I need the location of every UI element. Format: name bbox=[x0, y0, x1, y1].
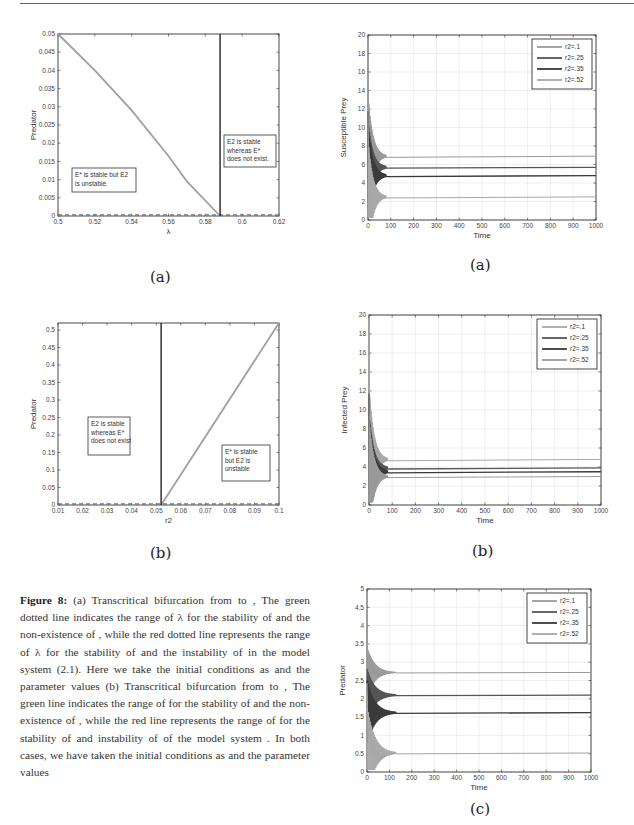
x-tick-label: 600 bbox=[503, 507, 514, 514]
legend: r2=.1r2=.25r2=.35r2=.52 bbox=[532, 39, 592, 89]
y-tick-label: 0.35 bbox=[42, 379, 55, 386]
y-tick-label: 1.5 bbox=[355, 713, 364, 720]
sublabel-right-b: (b) bbox=[472, 542, 493, 560]
y-tick-label: 12 bbox=[358, 105, 366, 112]
x-tick-label: 400 bbox=[451, 774, 462, 781]
x-tick-label: 1000 bbox=[584, 774, 599, 781]
y-tick-label: 2 bbox=[362, 482, 366, 489]
legend-entry: r2=.25 bbox=[565, 54, 584, 61]
x-tick-label: 600 bbox=[499, 222, 510, 229]
legend: r2=.1r2=.25r2=.35r2=.52 bbox=[527, 593, 587, 643]
x-tick-label: 700 bbox=[526, 507, 537, 514]
x-tick-label: 0.09 bbox=[248, 507, 261, 514]
x-tick-label: 300 bbox=[433, 507, 444, 514]
legend-entry: r2=.35 bbox=[565, 65, 584, 72]
y-tick-label: 5 bbox=[360, 585, 364, 592]
annotation-text: does not exist. bbox=[227, 155, 269, 162]
annotation-text: whereas E* bbox=[90, 429, 125, 436]
x-tick-label: 100 bbox=[387, 507, 398, 514]
x-tick-label: 600 bbox=[496, 774, 507, 781]
y-tick-label: 0.05 bbox=[42, 30, 55, 37]
y-tick-label: 14 bbox=[359, 368, 367, 375]
x-tick-label: 200 bbox=[406, 774, 417, 781]
x-tick-label: 700 bbox=[518, 774, 529, 781]
annotation-text: E2 is stable bbox=[91, 420, 125, 427]
x-tick-label: 100 bbox=[384, 774, 395, 781]
x-tick-label: 900 bbox=[563, 774, 574, 781]
x-tick-label: 0 bbox=[365, 774, 369, 781]
y-axis-label: Predator bbox=[338, 665, 347, 696]
legend: r2=.1r2=.25r2=.35r2=.52 bbox=[537, 319, 597, 369]
sublabel-left-b: (b) bbox=[150, 544, 171, 562]
figure-number: Figure 8: bbox=[20, 594, 67, 606]
y-tick-label: 0.01 bbox=[42, 176, 55, 183]
chart-susceptible-prey: 0100200300400500600700800900100002468101… bbox=[317, 0, 634, 260]
x-axis-label: r2 bbox=[165, 516, 173, 525]
legend-entry: r2=.52 bbox=[560, 630, 579, 637]
legend-entry: r2=.35 bbox=[560, 619, 579, 626]
x-tick-label: 0.56 bbox=[162, 218, 175, 225]
y-tick-label: 0.025 bbox=[39, 121, 56, 128]
y-tick-label: 3 bbox=[360, 658, 364, 665]
x-tick-label: 0.58 bbox=[199, 218, 212, 225]
y-tick-label: 4.5 bbox=[355, 604, 364, 611]
x-tick-label: 400 bbox=[456, 507, 467, 514]
legend-entry: r2=.25 bbox=[570, 334, 589, 341]
y-tick-label: 16 bbox=[358, 68, 366, 75]
y-tick-label: 18 bbox=[358, 50, 366, 57]
y-tick-label: 0.25 bbox=[42, 414, 55, 421]
x-tick-label: 0.04 bbox=[125, 507, 138, 514]
y-tick-label: 0.04 bbox=[42, 67, 55, 74]
y-tick-label: 6 bbox=[361, 161, 365, 168]
chart-infected-prey: 0100200300400500600700800900100002468101… bbox=[317, 300, 634, 540]
legend-entry: r2=.52 bbox=[565, 76, 584, 83]
y-tick-label: 1 bbox=[360, 732, 364, 739]
y-tick-label: 0.15 bbox=[42, 449, 55, 456]
y-tick-label: 0 bbox=[361, 216, 365, 223]
y-tick-label: 14 bbox=[358, 87, 366, 94]
x-tick-label: 0.1 bbox=[274, 507, 283, 514]
y-tick-label: 0 bbox=[51, 212, 55, 219]
x-tick-label: 100 bbox=[385, 222, 396, 229]
x-tick-label: 500 bbox=[474, 774, 485, 781]
y-tick-label: 2.5 bbox=[355, 677, 364, 684]
x-tick-label: 200 bbox=[410, 507, 421, 514]
x-tick-label: 0.62 bbox=[273, 218, 286, 225]
y-axis-label: Predator bbox=[29, 398, 38, 429]
x-axis-label: Time bbox=[476, 516, 494, 525]
x-tick-label: 800 bbox=[541, 774, 552, 781]
x-axis-label: λ bbox=[167, 227, 171, 236]
annotation-text: but E2 is bbox=[225, 457, 251, 464]
x-tick-label: 0.08 bbox=[224, 507, 237, 514]
y-tick-label: 10 bbox=[358, 124, 366, 131]
y-tick-label: 20 bbox=[359, 311, 367, 318]
x-tick-label: 0.6 bbox=[238, 218, 247, 225]
x-axis-label: Time bbox=[470, 783, 488, 792]
y-tick-label: 0.3 bbox=[46, 396, 55, 403]
legend-entry: r2=.25 bbox=[560, 608, 579, 615]
legend-entry: r2=.35 bbox=[570, 345, 589, 352]
y-tick-label: 2 bbox=[361, 198, 365, 205]
y-tick-label: 2 bbox=[360, 695, 364, 702]
y-tick-label: 0.5 bbox=[46, 326, 55, 333]
y-axis-label: Predator bbox=[29, 109, 38, 140]
x-tick-label: 800 bbox=[549, 507, 560, 514]
x-tick-label: 500 bbox=[477, 222, 488, 229]
annotation-text: E* is stable but E2 bbox=[75, 171, 128, 178]
x-tick-label: 400 bbox=[454, 222, 465, 229]
y-tick-label: 0.03 bbox=[42, 103, 55, 110]
x-tick-label: 200 bbox=[408, 222, 419, 229]
sublabel-right-c: (c) bbox=[470, 800, 490, 818]
y-tick-label: 10 bbox=[359, 406, 367, 413]
legend-entry: r2=.1 bbox=[565, 43, 580, 50]
annotation-text: unstable bbox=[225, 465, 250, 472]
y-tick-label: 4 bbox=[362, 463, 366, 470]
x-tick-label: 0.52 bbox=[89, 218, 102, 225]
y-tick-label: 4 bbox=[361, 179, 365, 186]
x-tick-label: 300 bbox=[431, 222, 442, 229]
x-tick-label: 900 bbox=[568, 222, 579, 229]
x-axis-label: Time bbox=[473, 231, 491, 240]
x-tick-label: 0.06 bbox=[174, 507, 187, 514]
x-tick-label: 1000 bbox=[594, 507, 609, 514]
y-tick-label: 0.005 bbox=[39, 194, 56, 201]
